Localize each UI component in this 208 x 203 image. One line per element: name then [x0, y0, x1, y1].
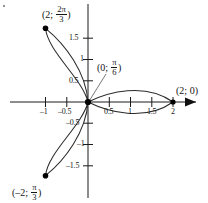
x-axis-arrowhead — [185, 98, 196, 107]
annotation-lower-left-point: (–2; π3) — [12, 183, 41, 201]
x-tick-label-neg-0-5: –0.5 — [58, 108, 71, 116]
fraction-numerator: π — [111, 58, 117, 67]
fraction-denominator: 6 — [111, 67, 117, 77]
x-tick-label-1-5: 1.5 — [147, 108, 156, 116]
petal-upper-left — [46, 28, 89, 102]
polar-rose-figure: –1 –0.5 0.5 1 1.5 2 1.5 1 0.5 –0.5 –1 –1… — [0, 0, 208, 203]
separator: ; — [25, 187, 30, 198]
x-tick-label-neg-1: –1 — [40, 108, 48, 116]
y-tick-label-1-5: 1.5 — [69, 34, 78, 42]
radius-value: –2 — [15, 187, 25, 198]
fraction-numerator: π — [31, 183, 37, 192]
separator: ; — [50, 9, 55, 20]
separator: ; — [105, 62, 110, 73]
angle-fraction: 2π3 — [56, 5, 67, 23]
fraction-numerator: 2π — [56, 5, 67, 14]
x-tick-label-2: 2 — [171, 108, 175, 116]
paren-close: ) — [67, 9, 70, 20]
annotation-right-point: (2; 0) — [176, 86, 198, 96]
x-tick-label-1: 1 — [128, 108, 132, 116]
y-tick-label-0-5: 0.5 — [69, 77, 78, 85]
fraction-denominator: 3 — [56, 14, 67, 24]
x-tick-label-0-5: 0.5 — [104, 108, 113, 116]
annotation-origin-point: (0; π6) — [97, 58, 121, 76]
origin-leader-line — [90, 74, 107, 101]
marker-origin — [85, 99, 91, 105]
angle-fraction: π3 — [31, 183, 37, 201]
y-tick-label-neg-1-5: –1.5 — [66, 162, 79, 170]
marker-lower-left-tip — [43, 173, 49, 179]
paren-close: ) — [38, 187, 41, 198]
fraction-denominator: 3 — [31, 192, 37, 202]
plot-canvas — [0, 0, 208, 203]
paren-close: ) — [195, 85, 198, 96]
marker-right-tip — [170, 99, 175, 104]
y-tick-label-neg-1: –1 — [77, 140, 85, 148]
angle-fraction: π6 — [111, 58, 117, 76]
y-tick-label-neg-0-5: –0.5 — [66, 119, 79, 127]
paren-close: ) — [118, 62, 121, 73]
marker-upper-left-tip — [43, 26, 49, 32]
annotation-upper-left-point: (2; 2π3) — [42, 5, 71, 23]
y-tick-label-1: 1 — [80, 55, 84, 63]
